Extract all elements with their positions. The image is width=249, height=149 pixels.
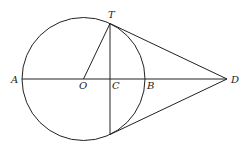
label-T: T (108, 9, 116, 20)
tangent-T2D (110, 79, 227, 135)
radius-OT (84, 24, 111, 80)
tangent-TD (110, 24, 227, 80)
label-C: C (112, 80, 120, 91)
label-A: A (10, 74, 18, 85)
label-B: B (146, 80, 154, 91)
label-D: D (230, 74, 239, 85)
label-O: O (79, 80, 87, 91)
geometry-diagram: T A O C B D (0, 0, 249, 149)
